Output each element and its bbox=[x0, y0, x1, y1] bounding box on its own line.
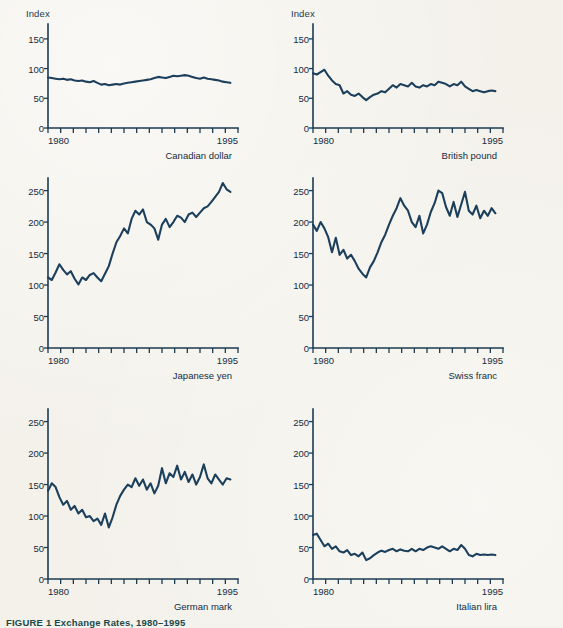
y-tick-label: 150 bbox=[28, 479, 44, 490]
x-tick-label-start: 1980 bbox=[313, 586, 334, 597]
panel-canadian-dollar: Index 05010015019801995Canadian dollar bbox=[0, 0, 281, 165]
data-series-line bbox=[313, 70, 495, 100]
y-tick-label: 200 bbox=[293, 217, 309, 228]
x-tick-label-end: 1995 bbox=[482, 355, 503, 366]
y-tick-label: 150 bbox=[28, 248, 44, 259]
chart-svg bbox=[313, 24, 507, 138]
y-tick-label: 0 bbox=[304, 574, 309, 585]
chart-axes bbox=[48, 409, 238, 579]
panel-german-mark: 05010015020025019801995German mark bbox=[0, 395, 281, 626]
chart-svg bbox=[48, 178, 242, 358]
y-tick-labels: 050100150200250 bbox=[18, 409, 44, 579]
y-tick-labels: 050100150200250 bbox=[18, 178, 44, 348]
chart-svg bbox=[313, 178, 507, 358]
y-tick-label: 200 bbox=[28, 448, 44, 459]
panel-swiss-franc: 05010015020025019801995Swiss franc bbox=[281, 165, 563, 395]
x-tick-label-end: 1995 bbox=[217, 586, 238, 597]
chart-axes bbox=[48, 24, 238, 128]
y-tick-label: 100 bbox=[293, 280, 309, 291]
chart-axes bbox=[313, 409, 503, 579]
y-tick-label: 250 bbox=[293, 185, 309, 196]
y-tick-label: 0 bbox=[39, 123, 44, 134]
y-tick-label: 100 bbox=[293, 511, 309, 522]
x-tick-label-start: 1980 bbox=[313, 135, 334, 146]
y-tick-label: 0 bbox=[304, 123, 309, 134]
y-axis-title: Index bbox=[26, 8, 50, 19]
y-tick-label: 50 bbox=[33, 542, 44, 553]
y-tick-label: 250 bbox=[293, 416, 309, 427]
chart-svg bbox=[313, 409, 507, 589]
y-tick-label: 250 bbox=[28, 185, 44, 196]
y-tick-label: 100 bbox=[28, 280, 44, 291]
x-tick-labels: 19801995 bbox=[313, 586, 503, 598]
data-series-line bbox=[48, 183, 230, 284]
x-tick-label-start: 1980 bbox=[48, 135, 69, 146]
chart-axes bbox=[313, 24, 503, 128]
plot-british-pound: 05010015019801995British pound bbox=[313, 24, 503, 128]
y-tick-label: 100 bbox=[28, 63, 44, 74]
series-caption: Canadian dollar bbox=[165, 150, 232, 161]
plot-canadian-dollar: 05010015019801995Canadian dollar bbox=[48, 24, 238, 128]
series-caption: German mark bbox=[174, 601, 232, 612]
series-caption: British pound bbox=[442, 150, 497, 161]
y-tick-label: 100 bbox=[293, 63, 309, 74]
panel-british-pound: Index 05010015019801995British pound bbox=[281, 0, 563, 165]
x-tick-label-end: 1995 bbox=[217, 135, 238, 146]
data-series-line bbox=[48, 464, 230, 527]
x-tick-labels: 19801995 bbox=[313, 135, 503, 147]
x-tick-label-end: 1995 bbox=[482, 586, 503, 597]
x-tick-labels: 19801995 bbox=[48, 586, 238, 598]
x-tick-label-start: 1980 bbox=[48, 586, 69, 597]
chart-svg bbox=[48, 24, 242, 138]
y-axis-title: Index bbox=[291, 8, 315, 19]
y-tick-labels: 050100150200250 bbox=[283, 409, 309, 579]
panel-japanese-yen: 05010015020025019801995Japanese yen bbox=[0, 165, 281, 395]
y-tick-label: 50 bbox=[298, 311, 309, 322]
data-series-line bbox=[313, 534, 495, 560]
y-tick-label: 150 bbox=[293, 33, 309, 44]
series-caption: Swiss franc bbox=[448, 370, 497, 381]
y-tick-label: 100 bbox=[28, 511, 44, 522]
y-tick-label: 0 bbox=[304, 343, 309, 354]
y-tick-labels: 050100150 bbox=[283, 24, 309, 128]
y-tick-label: 50 bbox=[298, 542, 309, 553]
chart-axes bbox=[313, 178, 503, 348]
series-caption: Japanese yen bbox=[173, 370, 232, 381]
data-series-line bbox=[48, 75, 230, 85]
panel-italian-lira: 05010015020025019801995Italian lira bbox=[281, 395, 563, 626]
y-tick-label: 150 bbox=[293, 479, 309, 490]
y-tick-label: 200 bbox=[293, 448, 309, 459]
y-tick-label: 50 bbox=[33, 93, 44, 104]
y-tick-labels: 050100150 bbox=[18, 24, 44, 128]
x-tick-label-start: 1980 bbox=[313, 355, 334, 366]
x-tick-labels: 19801995 bbox=[48, 355, 238, 367]
y-tick-label: 50 bbox=[298, 93, 309, 104]
x-tick-label-end: 1995 bbox=[217, 355, 238, 366]
y-tick-label: 200 bbox=[28, 217, 44, 228]
y-tick-label: 250 bbox=[28, 416, 44, 427]
x-tick-label-start: 1980 bbox=[48, 355, 69, 366]
y-tick-label: 150 bbox=[293, 248, 309, 259]
data-series-line bbox=[313, 191, 495, 278]
plot-japanese-yen: 05010015020025019801995Japanese yen bbox=[48, 178, 238, 348]
plot-italian-lira: 05010015020025019801995Italian lira bbox=[313, 409, 503, 579]
chart-svg bbox=[48, 409, 242, 589]
plot-swiss-franc: 05010015020025019801995Swiss franc bbox=[313, 178, 503, 348]
y-tick-label: 0 bbox=[39, 343, 44, 354]
plot-german-mark: 05010015020025019801995German mark bbox=[48, 409, 238, 579]
x-tick-labels: 19801995 bbox=[48, 135, 238, 147]
x-tick-label-end: 1995 bbox=[482, 135, 503, 146]
y-tick-labels: 050100150200250 bbox=[283, 178, 309, 348]
figure-caption: FIGURE 1 Exchange Rates, 1980–1995 bbox=[6, 617, 185, 628]
y-tick-label: 0 bbox=[39, 574, 44, 585]
x-tick-labels: 19801995 bbox=[313, 355, 503, 367]
series-caption: Italian lira bbox=[456, 601, 497, 612]
y-tick-label: 150 bbox=[28, 33, 44, 44]
y-tick-label: 50 bbox=[33, 311, 44, 322]
